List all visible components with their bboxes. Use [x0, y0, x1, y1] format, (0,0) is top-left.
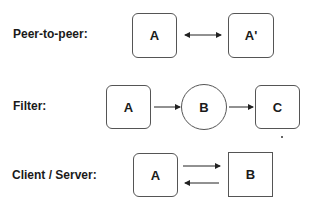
- diagram-edges: [0, 0, 309, 207]
